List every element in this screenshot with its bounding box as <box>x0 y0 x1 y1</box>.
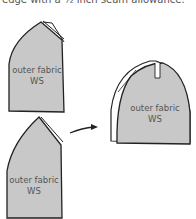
piece-label: outer fabric <box>9 175 59 185</box>
piece-label: outer fabric <box>12 65 62 75</box>
piece-top-left: outer fabric WS <box>9 21 64 112</box>
sewing-diagram: outer fabric WS outer fabric WS outer fa… <box>0 0 196 219</box>
piece-result: outer fabric WS <box>111 61 190 144</box>
piece-label: WS <box>30 76 44 86</box>
piece-label: outer fabric <box>130 103 180 113</box>
piece-bottom-left: outer fabric WS <box>7 117 63 218</box>
piece-label: WS <box>148 114 162 124</box>
piece-label: WS <box>27 186 41 196</box>
arrow-right-icon <box>70 124 98 133</box>
